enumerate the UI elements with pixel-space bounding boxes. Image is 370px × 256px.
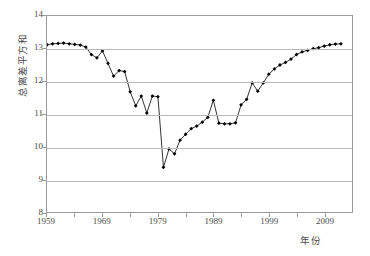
y-tick-mark xyxy=(42,114,46,115)
x-axis-ticks: 195919691979198919992009 xyxy=(0,216,370,230)
data-point-marker xyxy=(56,42,60,46)
x-tick-label: 2009 xyxy=(316,216,334,226)
data-point-marker xyxy=(156,95,160,99)
x-tick-mark xyxy=(46,213,47,217)
x-tick-label: 1999 xyxy=(260,216,278,226)
x-tick-mark xyxy=(213,213,214,217)
data-point-marker xyxy=(62,41,66,45)
chart-title xyxy=(0,0,370,8)
y-tick-label: 11 xyxy=(3,109,43,118)
gridline-y xyxy=(47,49,352,50)
y-tick-label: 14 xyxy=(3,10,43,19)
data-point-marker xyxy=(78,43,82,47)
data-point-marker xyxy=(228,122,232,126)
data-point-marker xyxy=(106,61,110,65)
data-point-marker xyxy=(51,42,55,46)
data-point-marker xyxy=(123,70,127,74)
x-tick-mark xyxy=(158,213,159,217)
y-tick-label: 10 xyxy=(3,142,43,151)
data-point-marker xyxy=(223,122,227,126)
plot-area xyxy=(46,15,353,213)
data-point-marker xyxy=(234,121,238,125)
data-point-marker xyxy=(134,104,138,108)
x-tick-mark xyxy=(102,213,103,217)
x-tick-mark xyxy=(325,213,326,217)
data-point-marker xyxy=(73,43,77,47)
gridline-y xyxy=(47,115,352,116)
y-tick-label: 13 xyxy=(3,43,43,52)
x-axis-label: 年份 xyxy=(300,236,321,246)
x-tick-mark xyxy=(186,213,187,217)
y-tick-mark xyxy=(42,180,46,181)
y-tick-mark xyxy=(42,48,46,49)
data-point-marker xyxy=(322,44,326,48)
x-tick-mark xyxy=(74,213,75,217)
x-tick-label: 1969 xyxy=(93,216,111,226)
x-tick-label: 1979 xyxy=(149,216,167,226)
series-line-total-sum-of-squares xyxy=(47,16,352,212)
x-tick-mark xyxy=(130,213,131,217)
data-point-marker xyxy=(217,121,221,125)
data-point-marker xyxy=(284,61,288,65)
y-tick-mark xyxy=(42,81,46,82)
x-tick-label: 1989 xyxy=(204,216,222,226)
x-tick-mark xyxy=(297,213,298,217)
gridline-y xyxy=(47,181,352,182)
data-point-marker xyxy=(339,42,343,46)
data-point-marker xyxy=(67,42,71,46)
data-point-marker xyxy=(162,165,166,169)
data-point-marker xyxy=(128,90,132,94)
data-point-marker xyxy=(47,43,49,47)
gridline-y xyxy=(47,82,352,83)
data-point-marker xyxy=(211,98,215,102)
y-axis-ticks: 141312111098 xyxy=(0,0,43,213)
y-tick-mark xyxy=(42,15,46,16)
data-point-marker xyxy=(300,50,304,54)
x-tick-mark xyxy=(269,213,270,217)
y-tick-mark xyxy=(42,147,46,148)
data-point-marker xyxy=(333,42,337,46)
gridline-y xyxy=(47,148,352,149)
x-tick-label: 1959 xyxy=(37,216,55,226)
y-tick-label: 9 xyxy=(3,175,43,184)
data-point-marker xyxy=(150,94,154,98)
data-point-marker xyxy=(328,43,332,47)
y-tick-label: 12 xyxy=(3,76,43,85)
data-point-marker xyxy=(139,94,143,98)
chart-container: 总离差平方和 年份 141312111098 19591969197919891… xyxy=(0,0,370,256)
x-tick-mark xyxy=(241,213,242,217)
